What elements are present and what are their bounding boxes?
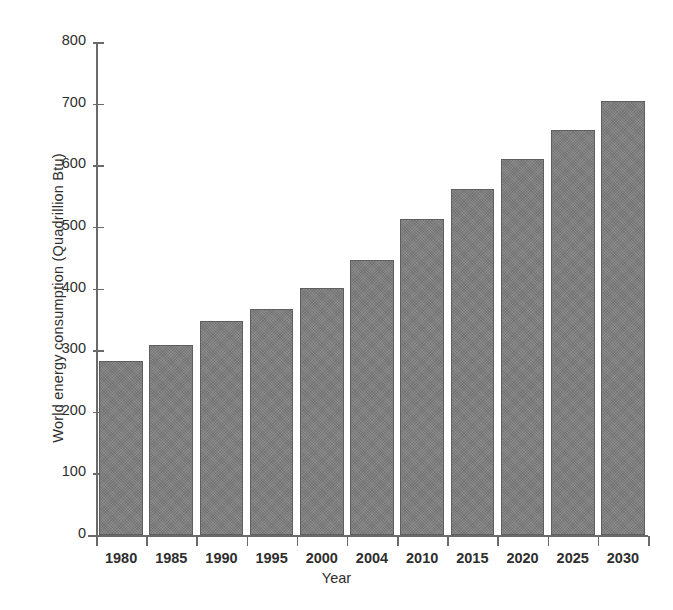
y-axis-tick-label: 700 [26,94,86,110]
bar-group [447,42,497,535]
x-axis-tick-mark [548,536,550,546]
y-axis-label: World energy consumption (Quadrillion Bt… [50,88,66,508]
bar-group [598,42,648,535]
bar-group [196,42,246,535]
bar-group [548,42,598,535]
bar [149,345,193,535]
x-axis-tick-mark [397,536,399,546]
x-axis-tick-mark [497,536,499,546]
y-axis-tick-label: 300 [26,340,86,356]
bar [501,159,545,535]
bar-group [96,42,146,535]
x-axis-tick-mark [96,536,98,546]
bar-group [146,42,196,535]
x-axis-tick-mark [648,536,650,546]
x-axis-tick-mark [247,536,249,546]
y-axis-tick-label: 600 [26,155,86,171]
chart-figure: World energy consumption (Quadrillion Bt… [0,0,673,610]
bar [551,130,595,535]
x-axis-tick-mark [447,536,449,546]
bar-group [347,42,397,535]
y-axis-tick-label: 500 [26,217,86,233]
x-axis-line [88,535,648,537]
y-axis-tick-label: 800 [26,32,86,48]
y-axis-tick-label: 400 [26,279,86,295]
bar [200,321,244,535]
bar [400,219,444,535]
bar [300,288,344,535]
bar-group [397,42,447,535]
y-axis-tick-label: 200 [26,402,86,418]
bar-series [96,42,648,535]
bar [601,101,645,535]
x-axis-tick-mark [297,536,299,546]
x-axis-label: Year [0,570,673,586]
x-axis-tick-mark [146,536,148,546]
bar [99,361,143,535]
bar-group [497,42,547,535]
bar [350,260,394,535]
x-axis-tick-mark [196,536,198,546]
bar-group [247,42,297,535]
plot-area: 0100200300400500600700800 19801985199019… [96,42,648,535]
bar [451,189,495,535]
bar-group [297,42,347,535]
x-axis-tick-mark [598,536,600,546]
y-axis-tick-label: 100 [26,463,86,479]
x-axis-tick-mark [347,536,349,546]
bar [250,309,294,535]
x-axis-tick-label: 2030 [593,550,653,566]
y-axis-tick-label: 0 [26,525,86,541]
y-axis-tick-mark [93,535,104,537]
